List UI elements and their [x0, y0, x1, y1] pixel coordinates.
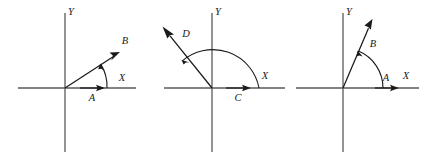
vector-b-line-1 — [65, 56, 114, 88]
x-axis-label-1: X — [118, 72, 126, 83]
vector-b-arrowhead-3 — [364, 19, 372, 30]
vector-c-label-2: C — [234, 92, 242, 103]
x-axis-label-2: X — [261, 70, 269, 81]
x-axis-label-3: X — [402, 70, 410, 81]
vector-b-label-1: B — [122, 35, 129, 46]
vector-b-label-3: B — [370, 38, 377, 49]
figure-container: Y X A B Y X C D — [0, 0, 431, 161]
angle-arc-3 — [359, 51, 384, 88]
diagram-1: Y X A B — [18, 6, 136, 152]
diagram-2: Y X C D — [163, 6, 286, 152]
vector-d-arrowhead-2 — [163, 27, 175, 39]
angle-arc-2 — [182, 50, 259, 88]
y-axis-label-2: Y — [215, 6, 222, 17]
vector-diagrams-svg: Y X A B Y X C D — [0, 0, 431, 161]
vector-a-label-1: A — [88, 92, 96, 103]
vector-b-line-3 — [343, 28, 369, 88]
angle-arc-arrowhead-2 — [182, 60, 190, 65]
y-axis-label-1: Y — [68, 6, 75, 17]
vector-d-label-2: D — [181, 28, 190, 39]
vector-d-line-2 — [170, 36, 212, 88]
y-axis-label-3: Y — [346, 6, 353, 17]
vector-b-arrowhead-1 — [110, 52, 120, 61]
vector-a-label-3: A — [382, 72, 390, 83]
diagram-3: Y X A B — [296, 6, 419, 152]
